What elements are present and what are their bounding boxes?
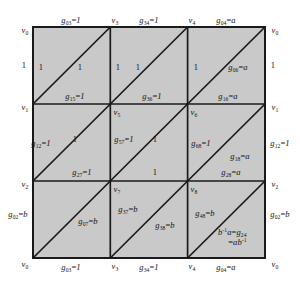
edge-label-g15: g15=1	[65, 92, 84, 101]
vertex-v1-right: v1	[272, 103, 279, 112]
vertex-v0-top-right: v0	[272, 26, 279, 35]
edge-label-g12-left: g12=1	[31, 139, 50, 148]
edge-label-g02-right: g02=b	[270, 210, 289, 219]
edge-label-g02-left: g02=b	[8, 210, 27, 219]
edge-label-g04-bottom: g04=a	[216, 263, 235, 272]
edge-label-band2-1: 1	[153, 168, 157, 177]
edge-label-right-1: 1	[271, 61, 275, 70]
vertex-v1-left: v1	[22, 103, 29, 112]
vertex-v4-top: v4	[189, 16, 196, 25]
vertex-v2-left: v2	[22, 180, 29, 189]
torus-triangulation-figure: v0 v3 v4 v0 g03=1 g34=1 g04=a 1 g12=1 g0…	[0, 0, 300, 285]
diagonal-label-g38: g38=b	[155, 221, 174, 230]
vertex-v5: v5	[114, 108, 121, 117]
edge-label-g12-right: g12=1	[270, 139, 289, 148]
edge-label-g34-top: g34=1	[139, 16, 158, 25]
diagonal-label-r2c2: 1	[153, 135, 157, 144]
diagonal-label-g18: g18=a	[230, 152, 249, 161]
edge-label-g03-top: g03=1	[61, 16, 80, 25]
edge-label-g37: g37=b	[118, 205, 137, 214]
vertex-v7: v7	[114, 185, 121, 194]
edge-label-g68: g68=1	[191, 139, 210, 148]
vertex-v3-bottom: v3	[112, 262, 119, 271]
diagonal-label-r1c1-left: 1	[39, 63, 43, 72]
edge-label-g36: g36=1	[142, 92, 161, 101]
diagonal-label-r1c3-left: 1	[194, 63, 198, 72]
diagonal-label-g06: g06=a	[228, 63, 247, 72]
vertex-v3-top: v3	[112, 16, 119, 25]
diagonal-label-r2c1: 1	[73, 135, 77, 144]
vertex-v8: v8	[191, 185, 198, 194]
diagonal-label-r1c2: 1	[136, 63, 140, 72]
vertex-v4-bottom: v4	[189, 262, 196, 271]
vertex-v2-right: v2	[272, 180, 279, 189]
vertex-v0-bottom-left: v0	[22, 260, 29, 269]
edge-label-g04-top: g04=a	[216, 16, 235, 25]
diagonal-label-r1c2-left: 1	[116, 63, 120, 72]
relation-line-2: =ab-1	[218, 238, 247, 248]
edge-label-g27: g27=1	[72, 168, 91, 177]
edge-label-g48: g48=b	[195, 209, 214, 218]
edge-label-left-1: 1	[22, 61, 26, 70]
diagonal-label-g07: g07=b	[78, 217, 97, 226]
vertex-v0-top-left: v0	[22, 26, 29, 35]
vertex-v0-bottom-right: v0	[272, 260, 279, 269]
edge-label-g03-bottom: g03=1	[61, 263, 80, 272]
diagonal-label-r1c1: 1	[78, 63, 82, 72]
relation-label-g24: b-1a=g24 =ab-1	[218, 228, 247, 248]
edge-label-g28: g28=a	[221, 168, 240, 177]
vertex-v6: v6	[191, 108, 198, 117]
edge-label-g57: g57=1	[114, 135, 133, 144]
edge-label-g16: g16=a	[218, 92, 237, 101]
edge-label-g34-bottom: g34=1	[139, 263, 158, 272]
